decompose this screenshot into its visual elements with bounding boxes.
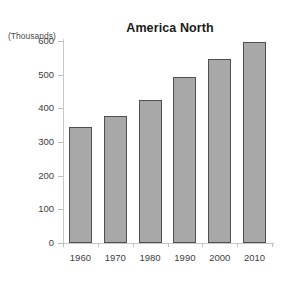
- x-axis-tick-label: 2010: [237, 252, 273, 263]
- x-axis-tick-label: 1990: [167, 252, 203, 263]
- y-axis-tick-label: 300: [0, 137, 54, 147]
- plot-area: [63, 41, 272, 243]
- bar: [208, 59, 231, 243]
- x-axis-tick-label: 1980: [132, 252, 168, 263]
- bar: [104, 116, 127, 243]
- bar: [243, 42, 266, 243]
- y-axis-tick-label: 500: [0, 70, 54, 80]
- x-axis-tick: [98, 243, 99, 247]
- x-axis-tick: [272, 243, 273, 247]
- x-axis-tick: [237, 243, 238, 247]
- x-axis-line: [58, 243, 274, 244]
- bar: [69, 127, 92, 243]
- bar: [173, 77, 196, 243]
- y-axis-tick-label: 0: [0, 238, 54, 248]
- y-axis-tick-label: 400: [0, 103, 54, 113]
- y-axis-tick-label: 100: [0, 204, 54, 214]
- x-axis-tick: [168, 243, 169, 247]
- x-axis-tick-label: 2000: [202, 252, 238, 263]
- chart-title: America North: [95, 21, 245, 35]
- y-axis-tick-label: 600: [0, 36, 54, 46]
- x-axis-tick-label: 1960: [62, 252, 98, 263]
- y-axis-tick-label: 200: [0, 171, 54, 181]
- bar-chart: (Thousands) America North 01002003004005…: [0, 0, 286, 287]
- x-axis-tick-label: 1970: [97, 252, 133, 263]
- x-axis-tick: [133, 243, 134, 247]
- x-axis-tick: [202, 243, 203, 247]
- bar: [139, 100, 162, 243]
- x-axis-tick: [63, 243, 64, 247]
